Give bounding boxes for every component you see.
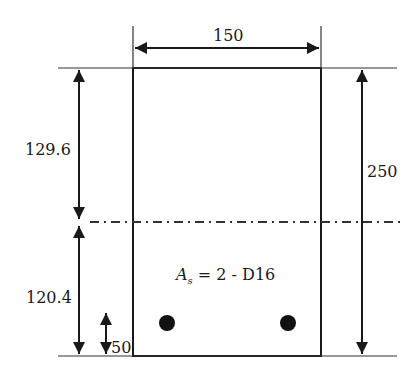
top-depth-label: 129.6: [25, 142, 71, 158]
rebar-right: [280, 315, 296, 331]
beam-outline: [133, 68, 321, 356]
reinforcement-label: As = 2 - D16: [176, 267, 275, 286]
cover-label: 50: [111, 340, 131, 356]
rebar-left: [159, 315, 175, 331]
diagram-canvas: [0, 0, 418, 383]
reinforcement-value: = 2 - D16: [198, 265, 275, 284]
beam-section-diagram: 150 250 129.6 120.4 50 As = 2 - D16: [0, 0, 418, 383]
area-steel-subscript: s: [188, 275, 193, 286]
height-label: 250: [367, 164, 398, 180]
area-steel-symbol: A: [176, 265, 188, 284]
bottom-depth-label: 120.4: [26, 290, 72, 306]
width-label: 150: [213, 28, 244, 44]
